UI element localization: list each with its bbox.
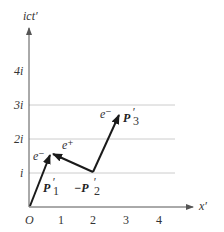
- spacetime-diagram: ict′ x′ O 1 2 3 4 i 2i 3i 4i e⁻ e⁺ e⁻ P …: [0, 0, 224, 232]
- y-tick-4i: 4i: [14, 64, 23, 78]
- vector-p3: [93, 115, 119, 172]
- svg-text:1: 1: [53, 184, 59, 198]
- x-tick-3: 3: [123, 213, 129, 227]
- x-tick-2: 2: [90, 213, 96, 227]
- x-axis-label: x′: [198, 199, 207, 213]
- x-tick-1: 1: [58, 213, 64, 227]
- svg-text:P: P: [123, 111, 131, 125]
- y-tick-2i: 2i: [14, 132, 23, 146]
- label-minus-p2: −P ′ 2: [74, 175, 100, 198]
- origin-label: O: [25, 213, 34, 227]
- electron-label-2: e⁻: [100, 107, 112, 121]
- label-p1: P ′ 1: [43, 175, 59, 198]
- vector-minus-p2: [53, 154, 93, 172]
- y-axis-label: ict′: [23, 9, 38, 23]
- y-tick-i: i: [20, 166, 23, 180]
- x-tick-4: 4: [156, 213, 162, 227]
- label-p3: P ′ 3: [123, 105, 139, 128]
- svg-text:P: P: [43, 181, 51, 195]
- svg-text:−P: −P: [74, 181, 89, 195]
- svg-text:2: 2: [94, 184, 100, 198]
- y-tick-3i: 3i: [13, 98, 23, 112]
- positron-label: e⁺: [62, 138, 74, 152]
- svg-text:3: 3: [133, 114, 139, 128]
- electron-label-1: e⁻: [33, 149, 45, 163]
